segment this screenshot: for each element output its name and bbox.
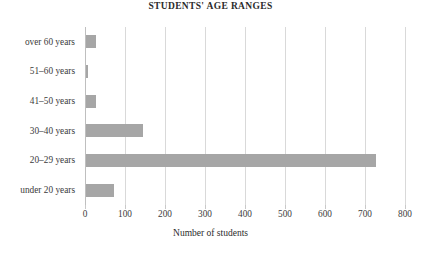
x-tick-label-800: 800 — [398, 209, 412, 219]
y-axis-label: 30–40 years — [0, 116, 80, 146]
x-tick-label-500: 500 — [278, 209, 292, 219]
gridline-800 — [405, 27, 406, 205]
x-tick-label-600: 600 — [318, 209, 332, 219]
bar-over-60-years — [86, 35, 96, 48]
x-axis-ticks: 0100200300400500600700800 — [85, 205, 405, 221]
bar-series — [86, 27, 405, 205]
chart-title: STUDENTS' AGE RANGES — [0, 1, 421, 11]
bar-row — [86, 27, 405, 57]
y-axis-label: 41–50 years — [0, 86, 80, 116]
y-axis-label: under 20 years — [0, 175, 80, 205]
y-axis-label: 51–60 years — [0, 57, 80, 87]
y-axis-label: 20–29 years — [0, 146, 80, 176]
bar-51–60-years — [86, 65, 88, 78]
bar-row — [86, 175, 405, 205]
bar-30–40-years — [86, 124, 143, 137]
x-tick-label-200: 200 — [158, 209, 172, 219]
bar-row — [86, 57, 405, 87]
bar-41–50-years — [86, 95, 96, 108]
x-tick-label-400: 400 — [238, 209, 252, 219]
bar-row — [86, 116, 405, 146]
y-axis-category-labels: under 20 years20–29 years30–40 years41–5… — [0, 27, 80, 205]
y-axis-label: over 60 years — [0, 27, 80, 57]
x-tick-label-300: 300 — [198, 209, 212, 219]
bar-row — [86, 86, 405, 116]
bar-row — [86, 146, 405, 176]
x-tick-label-100: 100 — [118, 209, 132, 219]
x-tick-label-0: 0 — [83, 209, 88, 219]
bar-20–29-years — [86, 154, 376, 167]
bar-under-20-years — [86, 184, 114, 197]
x-tick-label-700: 700 — [358, 209, 372, 219]
plot-area — [85, 27, 405, 205]
x-axis-title: Number of students — [0, 228, 421, 238]
bar-chart: STUDENTS' AGE RANGES under 20 years20–29… — [0, 0, 421, 254]
